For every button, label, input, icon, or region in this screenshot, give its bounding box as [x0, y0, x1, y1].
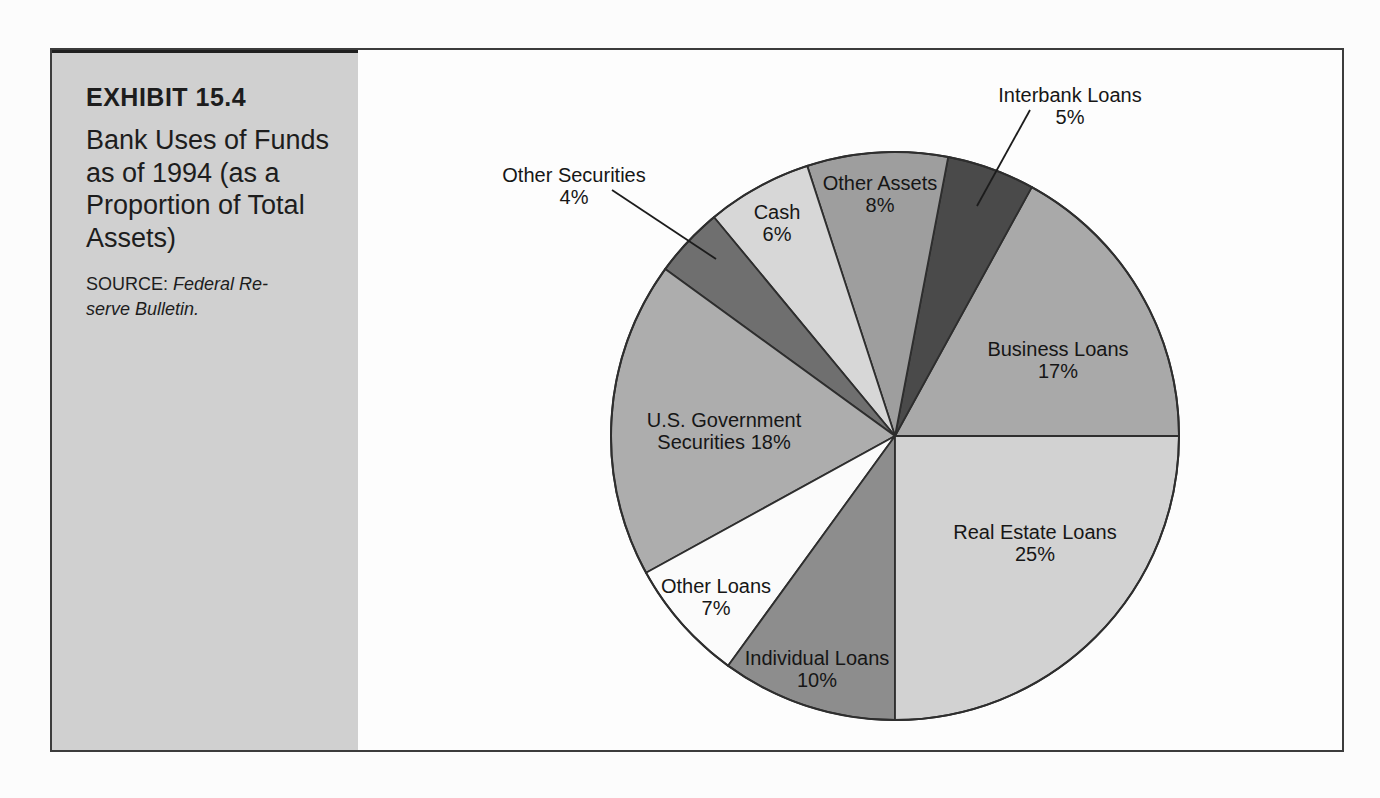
exhibit-sidebar: EXHIBIT 15.4 Bank Uses of Funds as of 19…: [52, 50, 358, 750]
exhibit-number: EXHIBIT 15.4: [86, 83, 336, 112]
exhibit-title: Bank Uses of Funds as of 1994 (as a Prop…: [86, 124, 336, 254]
exhibit-box: EXHIBIT 15.4 Bank Uses of Funds as of 19…: [50, 48, 1344, 752]
exhibit-source: SOURCE: Federal Re- serve Bulletin.: [86, 272, 336, 322]
source-prefix: SOURCE:: [86, 274, 173, 294]
exhibit-page: EXHIBIT 15.4 Bank Uses of Funds as of 19…: [0, 0, 1380, 798]
